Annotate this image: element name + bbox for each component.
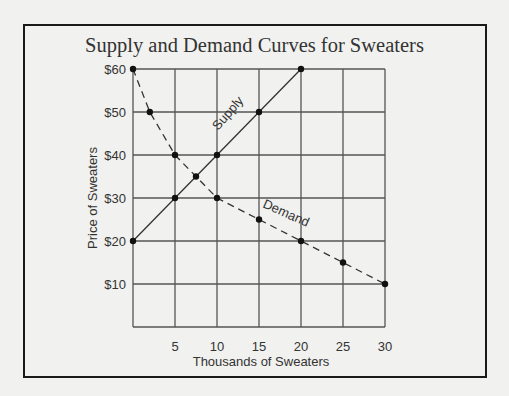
x-tick-label: 15 <box>252 339 266 354</box>
y-tick-label: $60 <box>104 62 126 77</box>
demand-point <box>193 173 199 179</box>
supply-demand-chart: $10$20$30$40$50$6051015202530Thousands o… <box>0 0 509 396</box>
y-tick-label: $20 <box>104 234 126 249</box>
supply-point <box>172 195 178 201</box>
demand-point <box>298 238 304 244</box>
x-tick-label: 30 <box>378 339 392 354</box>
y-tick-label: $50 <box>104 105 126 120</box>
y-tick-label: $30 <box>104 191 126 206</box>
demand-point <box>382 281 388 287</box>
y-tick-label: $10 <box>104 277 126 292</box>
demand-point <box>172 152 178 158</box>
demand-point <box>256 216 262 222</box>
supply-point <box>256 109 262 115</box>
demand-point <box>340 259 346 265</box>
demand-point <box>147 109 153 115</box>
supply-point <box>214 152 220 158</box>
x-tick-label: 20 <box>294 339 308 354</box>
supply-point <box>298 66 304 72</box>
x-axis-title: Thousands of Sweaters <box>193 354 330 369</box>
y-axis-title: Price of Sweaters <box>85 147 100 249</box>
supply-point <box>130 238 136 244</box>
y-tick-label: $40 <box>104 148 126 163</box>
demand-point <box>214 195 220 201</box>
demand-label: Demand <box>261 196 312 230</box>
x-tick-label: 25 <box>336 339 350 354</box>
x-tick-label: 10 <box>210 339 224 354</box>
demand-point <box>130 66 136 72</box>
x-tick-label: 5 <box>171 339 178 354</box>
supply-label: Supply <box>209 93 247 133</box>
